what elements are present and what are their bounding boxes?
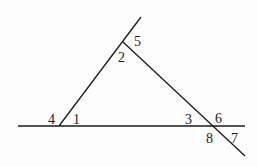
angle-label-7: 7 xyxy=(231,131,238,146)
angle-label-3: 3 xyxy=(185,112,192,127)
angle-label-4: 4 xyxy=(48,112,55,127)
angle-label-1: 1 xyxy=(73,112,80,127)
angle-label-6: 6 xyxy=(215,111,222,126)
angle-label-5: 5 xyxy=(134,34,141,49)
angle-label-8: 8 xyxy=(206,131,213,146)
left-side-line xyxy=(59,17,141,126)
right-side-line xyxy=(123,42,245,156)
diagram-svg: 1 2 3 4 5 6 7 8 xyxy=(0,0,258,166)
geometry-diagram: 1 2 3 4 5 6 7 8 xyxy=(0,0,258,166)
angle-label-2: 2 xyxy=(118,50,125,65)
